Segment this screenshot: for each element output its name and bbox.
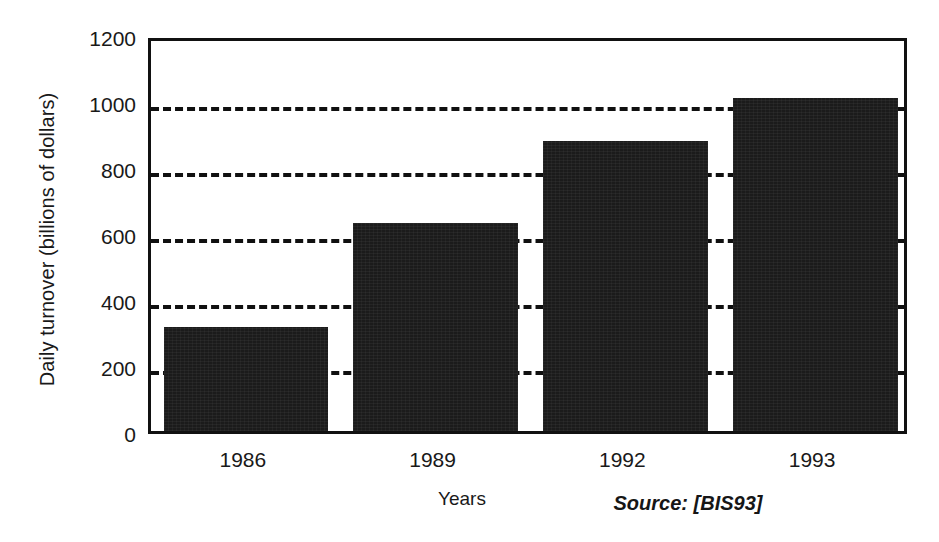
x-tick-label: 1993 (789, 448, 836, 472)
y-axis-tick-labels: 020040060080010001200 (52, 0, 136, 542)
x-axis-tick-labels: 1986198919921993 (148, 448, 907, 478)
x-tick-label: 1992 (599, 448, 646, 472)
bar (733, 98, 898, 431)
y-tick-label: 400 (52, 292, 136, 313)
x-tick-label: 1989 (409, 448, 456, 472)
bar (164, 327, 329, 431)
y-tick-label: 1000 (52, 94, 136, 115)
bar (543, 141, 708, 431)
bars-group (151, 41, 904, 431)
y-tick-label: 600 (52, 226, 136, 247)
bar (353, 223, 518, 431)
x-tick-label: 1986 (220, 448, 267, 472)
plot-area (148, 38, 907, 434)
source-annotation: Source: [BIS93] (614, 492, 763, 515)
x-axis-title: Years (438, 488, 486, 510)
y-tick-label: 800 (52, 160, 136, 181)
y-tick-label: 0 (52, 424, 136, 445)
y-tick-label: 1200 (52, 28, 136, 49)
bar-chart: Daily turnover (billions of dollars) 020… (0, 0, 939, 542)
y-tick-label: 200 (52, 358, 136, 379)
